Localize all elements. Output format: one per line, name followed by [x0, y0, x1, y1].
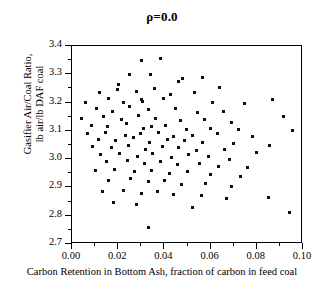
- data-point: [110, 146, 113, 149]
- y-tick-label: 2.7: [22, 237, 62, 247]
- data-point: [177, 146, 180, 149]
- data-point: [222, 110, 225, 113]
- data-point: [142, 127, 145, 130]
- data-point: [101, 190, 104, 193]
- data-point: [95, 107, 98, 110]
- data-point: [122, 101, 125, 104]
- data-point: [106, 125, 109, 128]
- y-tick-label: 2.8: [22, 209, 62, 219]
- data-point: [163, 179, 166, 182]
- y-tick-major: [65, 102, 71, 103]
- data-point: [80, 117, 83, 120]
- chart-title: ρ=0.0: [0, 9, 324, 25]
- x-tick-label: 0.08: [233, 250, 279, 261]
- x-tick-major: [163, 243, 164, 249]
- data-point: [179, 119, 182, 122]
- data-point: [288, 211, 291, 214]
- data-point: [124, 134, 127, 137]
- y-tick-minor: [68, 116, 71, 117]
- x-tick-minor: [94, 243, 95, 246]
- y-tick-label: 3.4: [22, 39, 62, 49]
- data-point: [107, 97, 110, 100]
- data-point: [147, 108, 150, 111]
- y-tick-major: [65, 186, 71, 187]
- data-point: [97, 138, 100, 141]
- y-tick-major: [65, 158, 71, 159]
- data-point: [200, 194, 203, 197]
- plot-area: [71, 45, 302, 243]
- data-point: [104, 131, 107, 134]
- x-tick-label: 0.10: [279, 250, 324, 261]
- data-point: [147, 226, 150, 229]
- data-point: [136, 155, 139, 158]
- data-point: [122, 189, 125, 192]
- data-point: [170, 156, 173, 159]
- data-point: [125, 122, 128, 125]
- data-point: [116, 88, 119, 91]
- data-point: [172, 193, 175, 196]
- data-point: [201, 141, 204, 144]
- data-point: [149, 73, 152, 76]
- data-point: [268, 144, 271, 147]
- data-point: [127, 144, 130, 147]
- data-point: [135, 203, 138, 206]
- data-point: [204, 182, 207, 185]
- x-tick-major: [302, 243, 303, 249]
- data-point: [201, 76, 204, 79]
- y-tick-label: 3.1: [22, 124, 62, 134]
- data-point: [230, 185, 233, 188]
- data-point: [140, 59, 143, 62]
- data-point: [129, 177, 132, 180]
- y-tick-label: 2.9: [22, 180, 62, 190]
- x-axis-title: Carbon Retention in Bottom Ash, fraction…: [0, 266, 324, 277]
- data-point: [211, 101, 214, 104]
- data-point: [113, 168, 116, 171]
- data-point: [168, 172, 171, 175]
- data-point: [237, 128, 240, 131]
- y-tick-minor: [68, 144, 71, 145]
- data-point: [251, 135, 254, 138]
- data-point: [174, 107, 177, 110]
- data-point: [291, 129, 294, 132]
- data-point: [150, 125, 153, 128]
- y-tick-label: 3.3: [22, 67, 62, 77]
- data-point: [218, 86, 221, 89]
- data-point: [132, 136, 135, 139]
- data-point: [164, 124, 167, 127]
- y-tick-minor: [68, 229, 71, 230]
- data-point: [172, 135, 175, 138]
- data-point: [183, 139, 186, 142]
- data-point: [126, 159, 129, 162]
- data-point: [150, 169, 153, 172]
- data-point: [181, 77, 184, 80]
- x-tick-label: 0.04: [140, 250, 186, 261]
- data-point: [111, 110, 114, 113]
- data-point: [84, 101, 87, 104]
- data-point: [203, 118, 206, 121]
- data-point: [143, 162, 146, 165]
- data-point: [271, 98, 274, 101]
- data-point: [232, 142, 235, 145]
- y-tick-major: [65, 45, 71, 46]
- data-point: [144, 148, 147, 151]
- data-point: [191, 134, 194, 137]
- data-point: [105, 160, 108, 163]
- x-tick-label: 0.06: [187, 250, 233, 261]
- y-tick-major: [65, 130, 71, 131]
- y-tick-major: [65, 215, 71, 216]
- x-tick-major: [71, 243, 72, 249]
- data-point: [90, 124, 93, 127]
- data-point: [137, 114, 140, 117]
- data-point: [141, 100, 144, 103]
- data-point: [223, 148, 226, 151]
- data-point: [196, 111, 199, 114]
- data-point: [159, 160, 162, 163]
- data-point: [255, 151, 258, 154]
- x-tick-minor: [140, 243, 141, 246]
- data-point: [243, 102, 246, 105]
- data-point: [151, 152, 154, 155]
- data-point: [128, 105, 131, 108]
- data-point: [157, 131, 160, 134]
- data-point: [99, 153, 102, 156]
- data-point: [193, 91, 196, 94]
